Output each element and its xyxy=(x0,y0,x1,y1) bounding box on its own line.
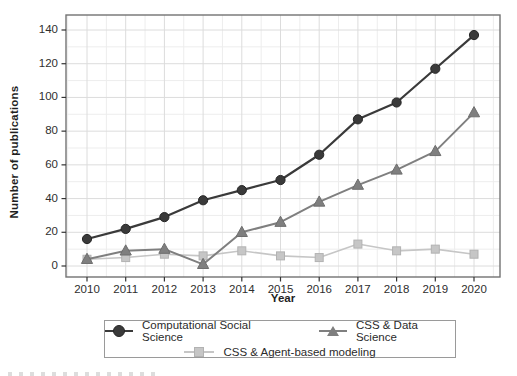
square-marker-icon xyxy=(470,250,478,258)
legend-label: Computational Social Science xyxy=(142,319,285,343)
x-tick-label: 2019 xyxy=(423,283,449,295)
legend-item-computational-social-science: Computational Social Science xyxy=(105,319,285,343)
y-tick-labels: 020406080100120140 xyxy=(39,23,58,271)
legend-item-css-agent-based-modeling: CSS & Agent-based modeling xyxy=(184,345,375,359)
y-tick-label: 40 xyxy=(45,192,58,204)
triangle-marker-icon xyxy=(275,216,286,226)
circle-marker-icon xyxy=(82,234,91,243)
axis-ticks xyxy=(62,30,475,282)
circle-marker-icon xyxy=(105,324,133,338)
x-tick-label: 2020 xyxy=(461,283,487,295)
chart-area: 0204060801001201402010201120122013201420… xyxy=(0,0,517,310)
legend: Computational Social Science CSS & Data … xyxy=(104,320,456,358)
legend-label: CSS & Agent-based modeling xyxy=(223,346,375,358)
circle-marker-icon xyxy=(237,186,246,195)
x-tick-label: 2011 xyxy=(113,283,138,295)
square-marker-icon xyxy=(393,247,401,255)
triangle-marker-icon xyxy=(159,243,170,253)
x-tick-label: 2018 xyxy=(384,283,410,295)
y-tick-label: 0 xyxy=(52,259,58,271)
cropped-caption xyxy=(8,372,158,376)
x-tick-label: 2016 xyxy=(306,283,332,295)
x-tick-label: 2014 xyxy=(229,283,255,295)
legend-row-2: CSS & Agent-based modeling xyxy=(105,345,455,359)
circle-marker-icon xyxy=(199,196,208,205)
circle-marker-icon xyxy=(160,213,169,222)
y-tick-label: 80 xyxy=(45,124,58,136)
x-tick-label: 2010 xyxy=(74,283,100,295)
figure: 0204060801001201402010201120122013201420… xyxy=(0,0,517,376)
y-tick-label: 120 xyxy=(39,57,58,69)
circle-marker-icon xyxy=(276,175,285,184)
legend-label: CSS & Data Science xyxy=(356,319,455,343)
x-tick-label: 2013 xyxy=(190,283,216,295)
circle-marker-icon xyxy=(121,224,130,233)
circle-marker-icon xyxy=(315,150,324,159)
legend-row-1: Computational Social Science CSS & Data … xyxy=(105,319,455,343)
x-tick-label: 2017 xyxy=(345,283,371,295)
triangle-marker-icon xyxy=(319,324,347,338)
square-marker-icon xyxy=(315,254,323,262)
circle-marker-icon xyxy=(353,115,362,124)
y-tick-label: 140 xyxy=(39,23,58,35)
triangle-marker-icon xyxy=(468,107,479,117)
y-tick-label: 100 xyxy=(39,90,58,102)
y-axis-title: Number of publications xyxy=(8,86,20,219)
y-tick-label: 60 xyxy=(45,158,58,170)
square-marker-icon xyxy=(431,245,439,253)
circle-marker-icon xyxy=(469,30,478,39)
x-axis-title: Year xyxy=(271,292,295,304)
y-tick-label: 20 xyxy=(45,225,58,237)
circle-marker-icon xyxy=(392,98,401,107)
square-marker-icon xyxy=(238,247,246,255)
square-marker-icon xyxy=(277,252,285,260)
x-tick-label: 2012 xyxy=(152,283,178,295)
circle-marker-icon xyxy=(431,64,440,73)
line-chart: 0204060801001201402010201120122013201420… xyxy=(0,0,517,310)
legend-item-css-data-science: CSS & Data Science xyxy=(319,319,455,343)
square-marker-icon xyxy=(354,240,362,248)
square-marker-icon xyxy=(184,345,214,359)
